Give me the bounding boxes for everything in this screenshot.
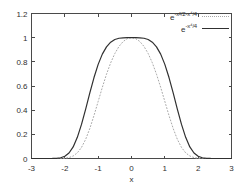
legend-line-sample-solid: [202, 28, 229, 29]
legend: e-x²/2-x⁴/4 e-x⁴/4: [170, 11, 229, 34]
y-tick-label: 1: [23, 34, 28, 43]
x-tick-label: -3: [28, 164, 36, 173]
curve-solid: [32, 38, 232, 159]
y-tick-label: 0.2: [16, 130, 28, 139]
x-tick-label: 2: [196, 164, 201, 173]
y-tick-label: 0: [23, 155, 28, 164]
x-tick-label: 0: [129, 164, 134, 173]
x-tick-label: 3: [229, 164, 234, 173]
x-axis-label: x: [31, 175, 232, 184]
curve-dotted: [32, 38, 232, 159]
legend-item: e-x⁴/4: [170, 23, 229, 34]
y-tick-label: 1.2: [16, 10, 28, 19]
x-tick-label: -2: [61, 164, 69, 173]
legend-label: e-x⁴/4: [181, 23, 197, 34]
legend-line-sample-dotted: [202, 16, 229, 17]
y-tick-label: 0.4: [16, 106, 28, 115]
legend-item: e-x²/2-x⁴/4: [170, 11, 229, 22]
gnuplot-chart-window: -3-2-1012300.20.40.60.811.2 e-x²/2-x⁴/4 …: [0, 0, 250, 193]
y-tick-label: 0.8: [16, 58, 28, 67]
legend-label: e-x²/2-x⁴/4: [170, 11, 197, 22]
y-tick-label: 0.6: [16, 82, 28, 91]
x-tick-label: 1: [163, 164, 168, 173]
plot-frame: [32, 14, 232, 159]
x-tick-label: -1: [95, 164, 103, 173]
